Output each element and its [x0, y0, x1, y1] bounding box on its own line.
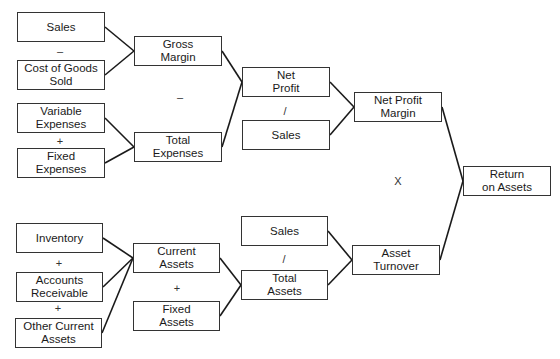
- node-current-assets: Current Assets: [133, 243, 220, 273]
- connector-cogs-to-gross_margin: [105, 51, 134, 75]
- node-label: Cost of Goods Sold: [24, 62, 98, 88]
- connector-other_current_assets-to-current_assets: [102, 258, 133, 333]
- connector-sales_bottom-to-asset_turnover: [328, 231, 352, 260]
- node-label: Sales: [270, 225, 299, 238]
- node-label: Accounts Receivable: [31, 274, 88, 300]
- node-total-assets: Total Assets: [241, 270, 328, 300]
- connector-fixed_assets-to-total_assets: [220, 285, 241, 316]
- connector-variable_expenses-to-total_expenses: [105, 118, 134, 147]
- operator-multiply: X: [390, 175, 406, 187]
- connector-total_expenses-to-net_profit: [222, 82, 242, 147]
- node-label: Variable Expenses: [36, 105, 87, 131]
- operator-plus: +: [52, 135, 68, 147]
- connector-asset_turnover-to-return_on_assets: [440, 181, 463, 260]
- operator-minus: –: [52, 45, 68, 57]
- node-total-expenses: Total Expenses: [134, 132, 222, 162]
- node-label: Current Assets: [157, 245, 195, 271]
- node-label: Asset Turnover: [373, 247, 419, 273]
- node-net-profit: Net Profit: [242, 67, 330, 97]
- node-other-current-assets: Other Current Assets: [15, 318, 102, 348]
- node-label: Fixed Expenses: [36, 150, 87, 176]
- operator-divide: /: [276, 253, 292, 265]
- node-asset-turnover: Asset Turnover: [352, 245, 440, 275]
- operator-plus: +: [50, 302, 66, 314]
- node-cost-of-goods-sold: Cost of Goods Sold: [17, 60, 105, 90]
- node-label: Total Assets: [267, 272, 302, 298]
- node-label: Sales: [47, 21, 76, 34]
- node-label: Sales: [272, 129, 301, 142]
- connector-sales_top-to-gross_margin: [105, 27, 134, 51]
- node-net-profit-margin: Net Profit Margin: [354, 92, 442, 122]
- operator-divide: /: [277, 105, 293, 117]
- node-label: Other Current Assets: [23, 320, 93, 346]
- node-label: Net Profit Margin: [374, 94, 422, 120]
- connector-net_profit-to-net_profit_margin: [330, 82, 354, 107]
- node-accounts-receivable: Accounts Receivable: [16, 272, 103, 302]
- operator-plus: +: [51, 257, 67, 269]
- node-gross-margin: Gross Margin: [134, 36, 222, 66]
- node-label: Return on Assets: [482, 168, 532, 194]
- node-return-on-assets: Return on Assets: [463, 166, 551, 196]
- return-on-assets-diagram: Sales Cost of Goods Sold Variable Expens…: [0, 0, 560, 359]
- operator-plus: +: [169, 282, 185, 294]
- node-label: Gross Margin: [160, 38, 195, 64]
- connector-total_assets-to-asset_turnover: [328, 260, 352, 285]
- connector-accounts_receivable-to-current_assets: [103, 258, 133, 287]
- node-sales-mid: Sales: [242, 120, 330, 150]
- connector-gross_margin-to-net_profit: [222, 51, 242, 82]
- connector-fixed_expenses-to-total_expenses: [105, 147, 134, 163]
- connector-net_profit_margin-to-return_on_assets: [442, 107, 463, 181]
- node-label: Total Expenses: [153, 134, 204, 160]
- connector-inventory-to-current_assets: [103, 238, 133, 258]
- node-variable-expenses: Variable Expenses: [17, 103, 105, 133]
- connector-sales_mid-to-net_profit_margin: [330, 107, 354, 135]
- node-inventory: Inventory: [16, 223, 103, 253]
- node-label: Fixed Assets: [159, 303, 194, 329]
- node-fixed-expenses: Fixed Expenses: [17, 148, 105, 178]
- node-label: Inventory: [36, 232, 83, 245]
- node-sales-top: Sales: [17, 12, 105, 42]
- operator-minus: –: [172, 91, 188, 103]
- node-label: Net Profit: [273, 69, 300, 95]
- connector-current_assets-to-total_assets: [220, 258, 241, 285]
- node-fixed-assets: Fixed Assets: [133, 301, 220, 331]
- node-sales-bottom: Sales: [241, 216, 328, 246]
